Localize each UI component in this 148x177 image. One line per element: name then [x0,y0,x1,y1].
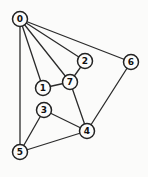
graph-edge-4-6 [87,62,131,131]
graph-node-6 [124,55,139,70]
graph-node-5 [13,145,28,160]
graph-node-3 [37,103,52,118]
graph-node-1 [36,81,51,96]
graph-canvas: 01234567 [0,0,148,177]
graph-node-2 [78,54,93,69]
graph-node-0 [13,12,28,27]
graph-node-7 [63,75,78,90]
graph-edge-0-1 [20,19,43,88]
graph-figure: 01234567 [0,0,148,177]
graph-node-4 [80,124,95,139]
